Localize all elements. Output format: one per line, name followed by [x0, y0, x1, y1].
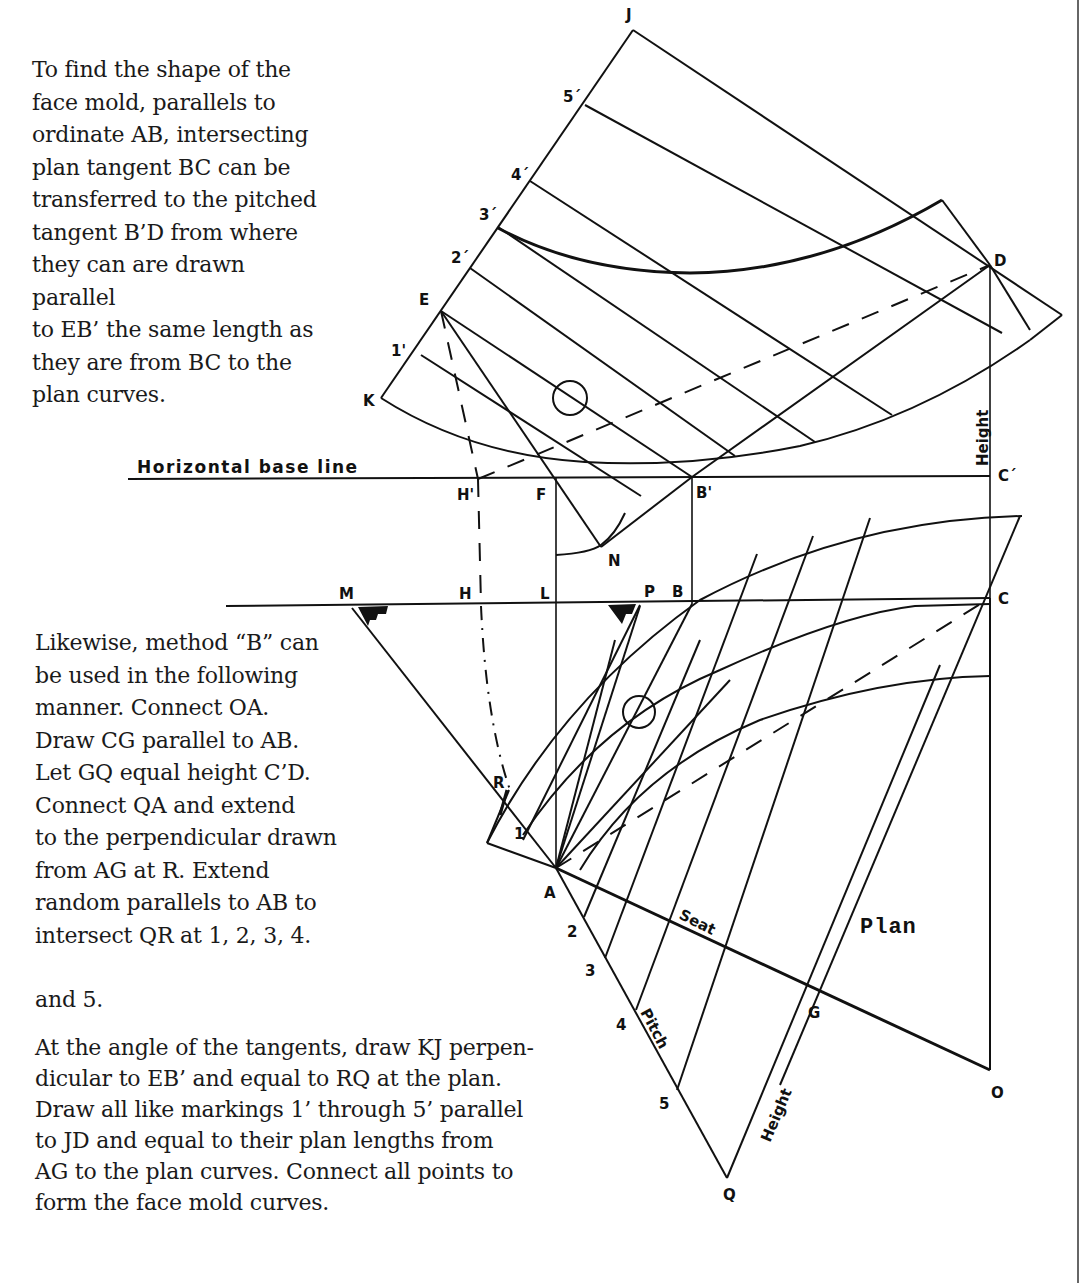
label-K: K [363, 392, 376, 410]
label-1: 1 [514, 825, 524, 843]
label-H: H [459, 585, 472, 603]
label-3-prime: 3´ [479, 206, 497, 224]
label-F: F [536, 486, 546, 504]
label-1-prime: 1' [391, 342, 406, 360]
handrail-face-mold-diagram: Horizontal base line [0, 0, 1086, 1283]
label-P: P [644, 583, 655, 601]
face-mold-construction [381, 30, 1062, 598]
label-R: R [493, 774, 505, 792]
label-O: O [991, 1084, 1004, 1102]
label-B: B [672, 583, 683, 601]
label-4-prime: 4´ [511, 166, 529, 184]
label-M: M [339, 585, 354, 603]
height-label-upper: Height [974, 410, 992, 466]
label-C: C [998, 590, 1009, 608]
label-5-prime: 5´ [563, 88, 581, 106]
label-E: E [419, 291, 429, 309]
label-2: 2 [567, 923, 577, 941]
label-H-prime: H' [457, 486, 474, 504]
plan-label: Plan [860, 915, 917, 940]
point-labels: J 5´ 4´ 3´ 2´ E 1' K D C´ H' F B' N M H … [339, 6, 1017, 1204]
height-label-lower: Height [757, 1086, 796, 1145]
horizontal-base-line-label: Horizontal base line [137, 457, 359, 477]
label-2-prime: 2´ [451, 249, 469, 267]
label-5: 5 [659, 1095, 669, 1113]
label-C-prime: C´ [998, 467, 1017, 485]
diagram-annotations: Height Seat Pitch Height Plan [636, 410, 992, 1145]
plan-construction [226, 516, 1022, 1178]
label-B-prime: B' [696, 484, 712, 502]
pitch-label: Pitch [636, 1005, 672, 1051]
label-Q: Q [723, 1186, 736, 1204]
label-G: G [808, 1004, 820, 1022]
label-D: D [994, 252, 1006, 270]
label-A: A [544, 884, 556, 902]
label-3: 3 [585, 962, 595, 980]
label-J: J [625, 6, 632, 24]
label-4: 4 [616, 1016, 626, 1034]
label-N: N [608, 552, 621, 570]
label-L: L [540, 585, 550, 603]
